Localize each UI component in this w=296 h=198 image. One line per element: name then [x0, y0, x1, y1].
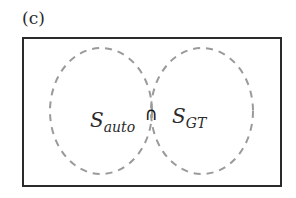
set-gt-label: SGT	[172, 104, 208, 131]
set-auto-label: Sauto	[90, 108, 135, 135]
intersection-symbol: ∩	[144, 103, 157, 124]
venn-diagram: Sauto ∩ SGT	[0, 0, 296, 198]
set-gt-circle	[151, 48, 253, 174]
